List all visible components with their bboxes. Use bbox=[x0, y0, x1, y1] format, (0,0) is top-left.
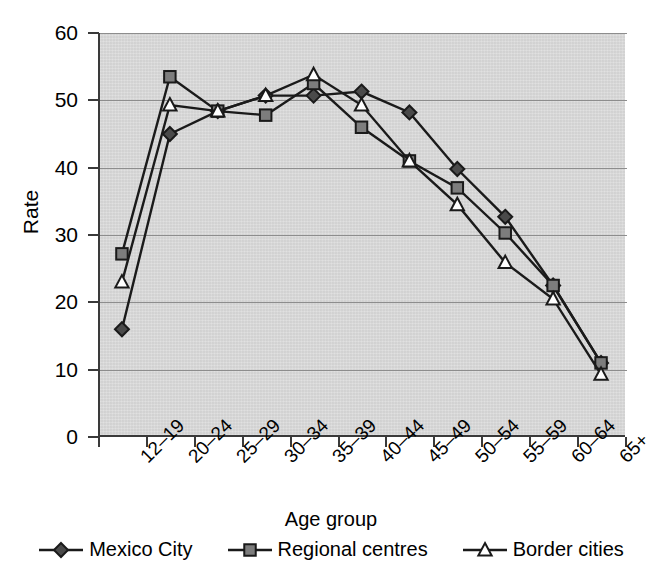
gridline bbox=[100, 302, 627, 303]
x-axis-title: Age group bbox=[0, 508, 662, 531]
x-tick-label: 35–39 bbox=[328, 452, 344, 468]
legend-label: Mexico City bbox=[89, 538, 192, 561]
y-tick-mark bbox=[88, 234, 99, 236]
gridline bbox=[100, 100, 627, 101]
legend-swatch bbox=[38, 539, 84, 561]
plot-texture bbox=[100, 33, 625, 435]
diamond-marker bbox=[54, 543, 68, 557]
plot-area bbox=[98, 33, 625, 437]
y-tick-label: 10 bbox=[12, 359, 78, 380]
gridline bbox=[100, 168, 627, 169]
y-tick-label: 60 bbox=[12, 22, 78, 43]
x-tick-label: 45–49 bbox=[423, 452, 439, 468]
x-tick-label: 12–19 bbox=[136, 452, 152, 468]
x-tick-label: 55–59 bbox=[519, 452, 535, 468]
legend-swatch bbox=[462, 539, 508, 561]
legend-label: Regional centres bbox=[278, 538, 428, 561]
y-axis-title: Rate bbox=[19, 157, 43, 267]
x-tick-label: 60–64 bbox=[567, 452, 583, 468]
x-tick-label: 30–34 bbox=[280, 452, 296, 468]
x-tick-label: 65+ bbox=[615, 452, 631, 468]
y-tick-mark bbox=[88, 167, 99, 169]
y-axis-labels: 0102030405060 bbox=[0, 0, 98, 470]
chart-figure: 0102030405060 Rate 12–1920–2425–2930–343… bbox=[0, 0, 662, 586]
chart-legend: Mexico CityRegional centresBorder cities bbox=[0, 538, 662, 561]
x-tick-mark bbox=[98, 437, 100, 447]
x-tick-label: 20–24 bbox=[184, 452, 200, 468]
y-tick-label: 20 bbox=[12, 291, 78, 312]
x-tick-label: 40–44 bbox=[376, 452, 392, 468]
y-tick-mark bbox=[88, 301, 99, 303]
gridline bbox=[100, 370, 627, 371]
y-tick-label: 50 bbox=[12, 89, 78, 110]
y-tick-mark bbox=[88, 99, 99, 101]
legend-item: Regional centres bbox=[227, 538, 428, 561]
x-tick-label: 25–29 bbox=[232, 452, 248, 468]
legend-item: Mexico City bbox=[38, 538, 192, 561]
legend-label: Border cities bbox=[513, 538, 624, 561]
square-marker bbox=[244, 544, 255, 555]
x-tick-label: 50–54 bbox=[471, 452, 487, 468]
gridline bbox=[100, 235, 627, 236]
legend-swatch bbox=[227, 539, 273, 561]
legend-item: Border cities bbox=[462, 538, 624, 561]
y-tick-mark bbox=[88, 369, 99, 371]
gridline bbox=[100, 33, 627, 34]
y-tick-label: 0 bbox=[12, 426, 78, 447]
y-tick-mark bbox=[88, 32, 99, 34]
